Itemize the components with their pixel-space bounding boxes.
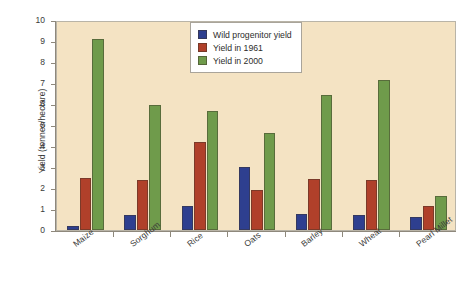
x-axis-separator bbox=[399, 231, 400, 237]
bar bbox=[207, 111, 219, 230]
bar bbox=[264, 133, 276, 230]
bar bbox=[182, 206, 194, 230]
x-axis-separator bbox=[113, 231, 114, 237]
bar bbox=[251, 190, 263, 230]
bar-group bbox=[343, 22, 400, 230]
bar-group bbox=[400, 22, 457, 230]
bar bbox=[80, 178, 92, 231]
y-tick-label: 8 bbox=[5, 57, 45, 67]
bar bbox=[296, 214, 308, 230]
y-tick-label: 6 bbox=[5, 99, 45, 109]
bar bbox=[124, 215, 136, 230]
bar bbox=[308, 179, 320, 230]
legend-item: Wild progenitor yield bbox=[198, 28, 292, 41]
y-tick-label: 9 bbox=[5, 36, 45, 46]
chart-legend: Wild progenitor yieldYield in 1961Yield … bbox=[190, 22, 302, 73]
y-tick-label: 2 bbox=[5, 183, 45, 193]
y-tick-label: 4 bbox=[5, 141, 45, 151]
y-tick-label: 5 bbox=[5, 120, 45, 130]
legend-swatch-icon bbox=[198, 43, 207, 52]
bar bbox=[149, 105, 161, 230]
bar bbox=[137, 180, 149, 230]
bar bbox=[378, 80, 390, 230]
bar bbox=[353, 215, 365, 230]
x-axis-label: Oats bbox=[242, 230, 263, 249]
x-axis-separator bbox=[170, 231, 171, 237]
y-tick-label: 10 bbox=[5, 15, 45, 25]
bar bbox=[92, 39, 104, 230]
legend-swatch-icon bbox=[198, 30, 207, 39]
bar bbox=[194, 142, 206, 230]
legend-swatch-icon bbox=[198, 56, 207, 65]
bar bbox=[67, 226, 79, 230]
bar bbox=[410, 217, 422, 230]
x-axis-separator bbox=[342, 231, 343, 237]
bar bbox=[321, 95, 333, 230]
legend-label: Yield in 2000 bbox=[213, 56, 263, 66]
y-tick-label: 7 bbox=[5, 78, 45, 88]
bar bbox=[366, 180, 378, 230]
x-axis-separator bbox=[227, 231, 228, 237]
y-tick-label: 3 bbox=[5, 162, 45, 172]
bar-group bbox=[57, 22, 114, 230]
chart-figure: Yield (tonnes/hectare) 012345678910 Maiz… bbox=[0, 0, 466, 285]
bar-group bbox=[114, 22, 171, 230]
y-tick-label: 1 bbox=[5, 204, 45, 214]
y-tick-label: 0 bbox=[5, 225, 45, 235]
bar bbox=[239, 167, 251, 230]
legend-label: Yield in 1961 bbox=[213, 43, 263, 53]
legend-item: Yield in 2000 bbox=[198, 54, 292, 67]
legend-label: Wild progenitor yield bbox=[213, 30, 292, 40]
legend-item: Yield in 1961 bbox=[198, 41, 292, 54]
x-axis-label: Rice bbox=[185, 230, 205, 249]
x-axis-separator bbox=[285, 231, 286, 237]
